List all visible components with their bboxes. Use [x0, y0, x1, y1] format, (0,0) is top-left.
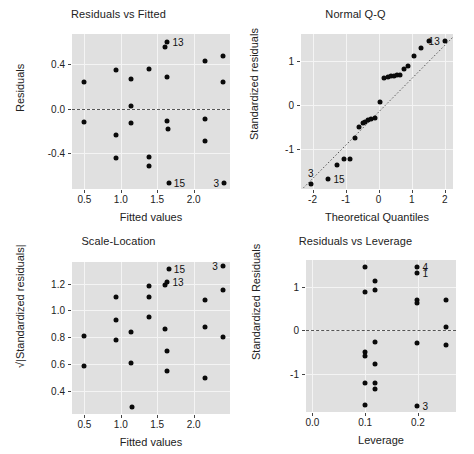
x-tick: [121, 415, 122, 418]
data-point: [362, 264, 367, 269]
panel-residuals-vs-leverage: Residuals vs Leverage 0.00.10.2-101Lever…: [237, 227, 474, 454]
data-point: [113, 338, 118, 343]
panel-title: Residuals vs Fitted: [0, 8, 237, 20]
data-point: [203, 375, 208, 380]
outlier-label: 15: [174, 263, 185, 274]
data-point: [113, 294, 118, 299]
data-point: [222, 181, 227, 186]
data-point: [128, 76, 133, 81]
x-tick-label: 1.0: [114, 419, 128, 430]
gridline-horizontal: [72, 364, 230, 365]
outlier-label: 1: [422, 267, 428, 278]
x-tick: [445, 190, 446, 193]
data-point: [166, 126, 171, 131]
y-tick-label: 0.6: [51, 359, 65, 370]
data-point: [415, 340, 420, 345]
data-point: [347, 156, 352, 161]
panel-normal-qq: Normal Q-Q -2-1012-101Theoretical Quanti…: [237, 0, 474, 227]
data-point: [352, 136, 357, 141]
data-point: [415, 403, 420, 408]
data-point: [128, 121, 133, 126]
data-point: [81, 120, 86, 125]
outlier-label: 3: [308, 167, 314, 178]
data-point: [147, 66, 152, 71]
outlier-label: 15: [174, 178, 185, 189]
data-point: [163, 45, 168, 50]
y-tick-label: 0: [293, 325, 299, 336]
data-point: [326, 177, 331, 182]
data-point: [373, 288, 378, 293]
y-tick: [68, 153, 71, 154]
zero-reference-line: [306, 330, 456, 331]
gridline-vertical: [84, 34, 85, 189]
y-axis-title: √|Standardized residuals|: [14, 244, 26, 368]
x-tick-label: 0.0: [305, 417, 319, 428]
data-point: [411, 54, 416, 59]
x-axis-title: Fitted values: [32, 211, 270, 223]
y-tick: [297, 149, 300, 150]
gridline-vertical: [121, 34, 122, 189]
gridline-horizontal: [306, 374, 456, 375]
data-point: [220, 288, 225, 293]
x-tick: [312, 413, 313, 416]
panel-title: Residuals vs Leverage: [237, 235, 474, 247]
data-point: [220, 264, 225, 269]
data-point: [373, 386, 378, 391]
x-tick-label: 1.5: [150, 419, 164, 430]
data-point: [128, 360, 133, 365]
plot-area: 413: [306, 260, 456, 412]
data-point: [362, 403, 367, 408]
plot-area: 13153: [72, 34, 230, 189]
data-point: [203, 297, 208, 302]
gridline-horizontal: [72, 337, 230, 338]
x-tick: [194, 415, 195, 418]
data-point: [164, 118, 169, 123]
data-point: [442, 38, 447, 43]
x-tick: [157, 415, 158, 418]
gridline-horizontal: [72, 310, 230, 311]
y-tick: [302, 287, 305, 288]
y-tick: [68, 310, 71, 311]
y-tick: [68, 364, 71, 365]
gridline-horizontal: [72, 64, 230, 65]
data-point: [443, 325, 448, 330]
x-tick-label: 0.5: [77, 419, 91, 430]
outlier-label: 3: [212, 261, 218, 272]
y-tick: [297, 105, 300, 106]
y-tick-label: 0.4: [51, 386, 65, 397]
data-point: [373, 362, 378, 367]
gridline-horizontal: [306, 287, 456, 288]
x-tick-label: 0.5: [77, 194, 91, 205]
data-point: [220, 79, 225, 84]
x-tick: [84, 415, 85, 418]
y-axis-title: Residuals: [14, 64, 26, 112]
data-point: [203, 116, 208, 121]
x-tick-label: 1.5: [150, 194, 164, 205]
data-point: [128, 329, 133, 334]
zero-reference-line: [72, 109, 230, 110]
plot-area: 13315: [301, 34, 453, 189]
y-tick-label: 1: [288, 56, 294, 67]
gridline-vertical: [157, 34, 158, 189]
outlier-label: 13: [429, 35, 440, 46]
gridline-vertical: [365, 260, 366, 412]
panel-title: Scale-Location: [0, 235, 237, 247]
y-tick-label: -1: [290, 368, 299, 379]
y-tick-label: 0: [288, 100, 294, 111]
y-tick: [68, 64, 71, 65]
x-tick-label: 0.2: [411, 417, 425, 428]
x-tick: [379, 190, 380, 193]
x-tick: [121, 190, 122, 193]
data-point: [165, 39, 170, 44]
data-point: [220, 54, 225, 59]
data-point: [373, 339, 378, 344]
x-tick: [194, 190, 195, 193]
data-point: [128, 104, 133, 109]
y-tick-label: -1: [285, 144, 294, 155]
y-tick: [302, 374, 305, 375]
data-point: [81, 333, 86, 338]
y-tick-label: -0.4: [48, 148, 65, 159]
data-point: [163, 327, 168, 332]
x-tick-label: 0.1: [358, 417, 372, 428]
data-point: [113, 317, 118, 322]
